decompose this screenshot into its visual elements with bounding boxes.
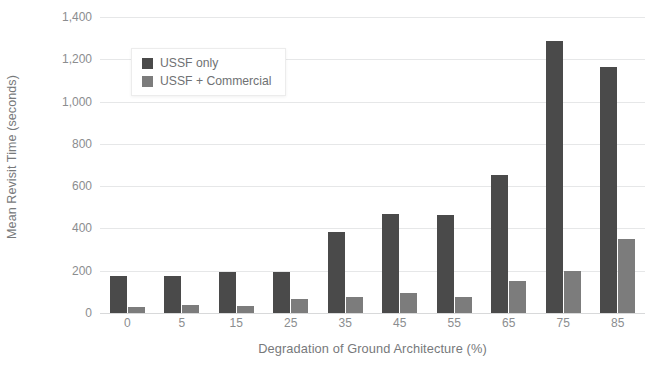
bar-ussf-commercial-85[interactable] [618,239,635,313]
y-tick-label-800: 800 [30,137,92,151]
legend-item-primary[interactable]: USSF only [142,56,271,70]
y-tick-label-1200: 1,200 [30,52,92,66]
legend-swatch-ussf-commercial [142,76,153,87]
bar-ussf-only-55[interactable] [437,215,454,313]
bar-ussf-commercial-55[interactable] [455,297,472,313]
bar-ussf-only-85[interactable] [600,67,617,313]
x-tick-label-85: 85 [611,316,624,330]
x-tick-label-65: 65 [502,316,515,330]
y-axis-title-label: Mean Revisit Time (seconds) [5,75,19,239]
bar-ussf-commercial-45[interactable] [400,293,417,313]
x-tick-label-25: 25 [284,316,297,330]
y-tick-label-600: 600 [30,179,92,193]
chart-legend: USSF only USSF + Commercial [131,48,286,96]
legend-item-secondary[interactable]: USSF + Commercial [142,74,271,88]
bar-ussf-commercial-15[interactable] [237,306,254,313]
bar-ussf-only-65[interactable] [491,175,508,313]
bar-ussf-only-0[interactable] [110,276,127,313]
x-axis-ticks: 051525354555657585 [100,316,645,336]
bar-group [536,17,591,313]
x-tick-label-55: 55 [448,316,461,330]
bar-ussf-only-45[interactable] [382,214,399,313]
x-tick-label-75: 75 [557,316,570,330]
bar-ussf-only-15[interactable] [219,272,236,313]
x-tick-label-15: 15 [230,316,243,330]
bar-group [318,17,373,313]
bar-ussf-commercial-25[interactable] [291,299,308,313]
x-tick-label-45: 45 [393,316,406,330]
bar-ussf-only-5[interactable] [164,276,181,313]
bar-group [373,17,428,313]
x-tick-label-0: 0 [124,316,131,330]
y-tick-label-1000: 1,000 [30,95,92,109]
x-axis-title: Degradation of Ground Architecture (%) [100,341,645,356]
bar-ussf-commercial-0[interactable] [128,307,145,313]
legend-swatch-ussf-only [142,58,153,69]
bar-ussf-only-35[interactable] [328,232,345,313]
x-tick-label-5: 5 [178,316,185,330]
bar-ussf-commercial-65[interactable] [509,281,526,313]
bar-ussf-only-25[interactable] [273,272,290,313]
y-tick-label-400: 400 [30,221,92,235]
y-tick-label-0: 0 [30,306,92,320]
bar-chart: Mean Revisit Time (seconds) 020040060080… [0,0,661,376]
bar-ussf-commercial-35[interactable] [346,297,363,313]
bar-ussf-commercial-75[interactable] [564,271,581,313]
gridline-0 [100,313,645,314]
y-tick-label-1400: 1,400 [30,10,92,24]
x-tick-label-35: 35 [339,316,352,330]
bar-ussf-commercial-5[interactable] [182,305,199,313]
y-tick-label-200: 200 [30,264,92,278]
y-axis-title: Mean Revisit Time (seconds) [0,0,24,313]
bar-ussf-only-75[interactable] [546,41,563,313]
bar-group [591,17,646,313]
bar-group [427,17,482,313]
legend-label-primary: USSF only [160,56,218,70]
legend-label-secondary: USSF + Commercial [160,74,271,88]
bar-group [482,17,537,313]
